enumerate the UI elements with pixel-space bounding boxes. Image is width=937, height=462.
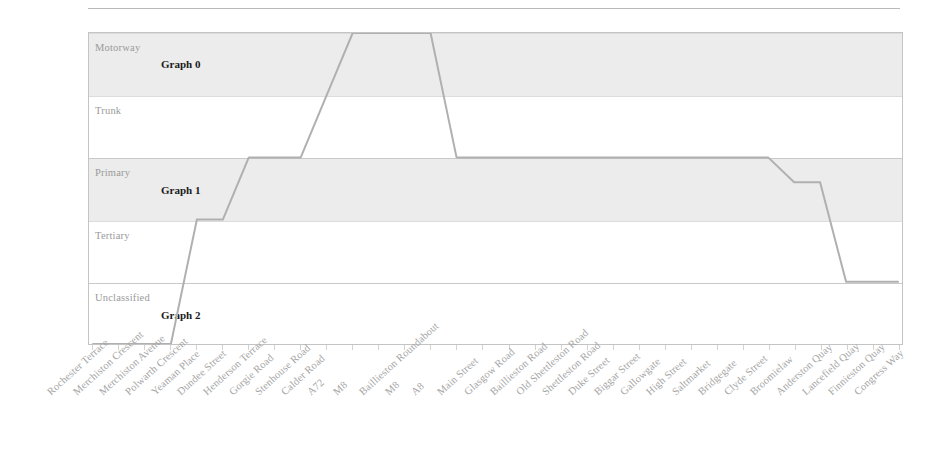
x-tick-label: A72: [305, 377, 326, 398]
plot-area: MotorwayTrunkPrimaryTertiaryUnclassified…: [88, 32, 903, 345]
x-tick-label: M8: [331, 379, 349, 397]
chart-page: MotorwayTrunkPrimaryTertiaryUnclassified…: [0, 0, 937, 462]
x-tick-label: A8: [409, 380, 426, 397]
x-axis-labels: Rochester TerraceMerchiston CrescentMerc…: [0, 349, 937, 462]
series-line: [89, 33, 902, 344]
header-divider: [88, 8, 900, 9]
series-polyline: [93, 33, 898, 344]
x-tick-label: M8: [383, 379, 401, 397]
